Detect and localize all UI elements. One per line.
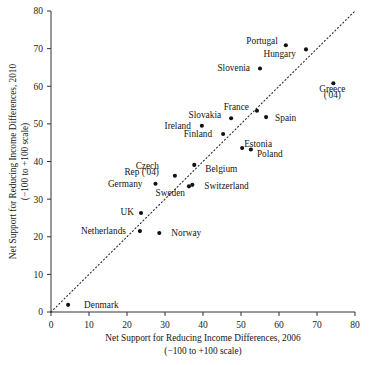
data-point <box>139 211 143 215</box>
x-axis-tick-label: 40 <box>198 320 208 330</box>
data-point-label: Spain <box>275 113 297 123</box>
data-point-label: Belgium <box>205 164 238 174</box>
y-axis-tick-label: 50 <box>34 119 44 129</box>
data-point <box>66 303 70 307</box>
scatter-plot-figure: 0102030405060708001020304050607080 Denma… <box>0 0 372 365</box>
y-axis-subtitle: (−100 to +100 scale) <box>20 123 31 200</box>
y-axis-tick-label: 80 <box>34 6 44 16</box>
x-axis-tick-label: 50 <box>236 320 246 330</box>
data-point <box>255 109 259 113</box>
data-point-label: France <box>224 102 249 112</box>
x-axis-tick-label: 30 <box>160 320 170 330</box>
data-point-label: Germany <box>108 179 143 189</box>
x-axis-tick-label: 80 <box>350 320 360 330</box>
data-point <box>192 163 196 167</box>
x-axis-tick-label: 60 <box>274 320 284 330</box>
scatter-plot-svg: 0102030405060708001020304050607080 Denma… <box>0 0 372 365</box>
data-point <box>190 183 194 187</box>
x-axis-title: Net Support for Reducing Income Differen… <box>105 333 301 343</box>
data-point-labels-group: DenmarkNetherlandsUKNorwayGermanyCzechRe… <box>81 36 346 310</box>
data-point-label: Netherlands <box>81 226 126 236</box>
x-axis-tick-label: 10 <box>84 320 94 330</box>
data-point-label: Denmark <box>84 300 119 310</box>
data-point-label: Estonia <box>244 139 272 149</box>
data-point <box>258 67 262 71</box>
data-point-label: Hungary <box>263 49 296 59</box>
y-axis-tick-label: 40 <box>34 157 44 167</box>
data-point <box>284 43 288 47</box>
identity-line <box>51 11 355 312</box>
x-axis-tick-label: 20 <box>122 320 132 330</box>
data-point-label: ('04) <box>324 90 341 101</box>
data-point <box>304 47 308 51</box>
data-point <box>153 182 157 186</box>
data-point <box>264 115 268 119</box>
identity-reference-line <box>51 11 355 312</box>
y-axis-tick-label: 60 <box>34 82 44 92</box>
data-point-label: Norway <box>171 228 201 238</box>
data-point <box>221 132 225 136</box>
y-axis-tick-label: 30 <box>34 195 44 205</box>
data-point-label: Poland <box>257 149 283 159</box>
x-axis-tick-label: 70 <box>312 320 322 330</box>
y-axis-tick-label: 0 <box>38 307 43 317</box>
data-point <box>138 229 142 233</box>
data-point <box>229 116 233 120</box>
y-axis-title: Net Support for Reducing Income Differen… <box>8 64 18 260</box>
data-point <box>157 231 161 235</box>
data-point <box>200 124 204 128</box>
y-axis-tick-label: 20 <box>34 232 44 242</box>
y-axis-tick-label: 10 <box>34 270 44 280</box>
data-point-label: UK <box>121 207 135 217</box>
data-point-label: Sweden <box>156 188 186 198</box>
data-point-label: Switzerland <box>204 181 249 191</box>
data-points-group <box>66 43 335 307</box>
data-point-label: Finland <box>184 129 213 139</box>
data-point-label: Portugal <box>246 36 278 46</box>
y-axis-tick-label: 70 <box>34 44 44 54</box>
data-point-label: Slovakia <box>189 110 222 120</box>
data-point <box>173 174 177 178</box>
x-axis-tick-label: 0 <box>49 320 54 330</box>
x-axis-subtitle: (−100 to +100 scale) <box>164 346 241 357</box>
data-point-label: Slovenia <box>217 63 250 73</box>
data-point-label: Rep ('04) <box>124 167 158 178</box>
